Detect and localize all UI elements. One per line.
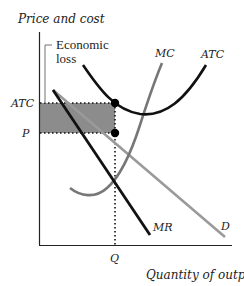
x-axis-label: Quantity of output: [146, 268, 244, 282]
demand-curve: [53, 90, 225, 237]
price-point: [111, 129, 119, 137]
economic-loss-label-line1: Economic: [56, 37, 109, 52]
mc-label: MC: [154, 47, 175, 60]
q-tick-label: Q: [110, 252, 119, 265]
economic-loss-diagram: Price and cost Economic loss MC ATC ATC …: [0, 0, 244, 286]
atc-tick-label: ATC: [10, 97, 35, 110]
y-axis-label: Price and cost: [17, 12, 105, 26]
atc-curve-label: ATC: [200, 48, 225, 61]
atc-point: [111, 99, 119, 107]
economic-loss-label-line2: loss: [56, 51, 76, 66]
demand-label: D: [220, 220, 230, 233]
p-tick-label: P: [21, 127, 30, 140]
mr-label: MR: [152, 221, 173, 234]
